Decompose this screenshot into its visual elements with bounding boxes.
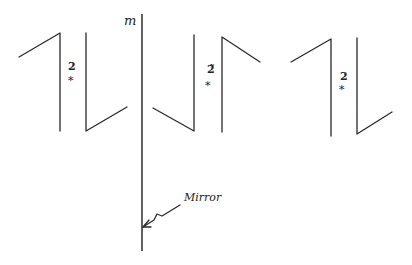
motif-1-number-label: 2 <box>68 61 76 72</box>
motif-1-star-mark: * <box>68 75 74 86</box>
motif-2-right-hook <box>222 37 260 132</box>
motif-2-left-hook <box>153 35 194 131</box>
motif-3-left-hook <box>291 39 331 136</box>
arrow-head <box>143 220 151 227</box>
motif-3-star-mark: * <box>339 84 345 95</box>
diagram-canvas <box>0 0 412 265</box>
motif-3-right-hook <box>357 38 392 134</box>
motif-2-star-mark: * <box>205 80 211 91</box>
mirror-symbol-label: m <box>124 14 136 27</box>
mirror-callout-arrow <box>143 205 180 227</box>
motif-2-number-label: 2̃ <box>207 64 215 75</box>
motif-3-number-label: 2 <box>340 71 348 82</box>
arrow-zigzag-line <box>143 205 180 227</box>
motif-1-left-hook <box>19 33 60 131</box>
mirror-callout-label: Mirror <box>184 192 221 203</box>
motif-1-right-hook <box>86 33 127 131</box>
